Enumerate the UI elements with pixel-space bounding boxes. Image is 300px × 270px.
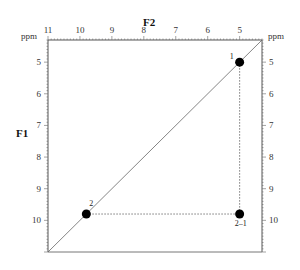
y-tick-label-right: 6 [269,89,274,99]
nmr-2d-correlation-chart: 11109876555667788991010 122–1 ppm ppm F2… [0,0,300,270]
y-tick-label-right: 8 [269,152,274,162]
y-tick-label-right: 10 [269,215,279,225]
tick-labels: 11109876555667788991010 [32,25,279,225]
data-point [82,210,91,219]
data-points: 122–1 [82,52,247,228]
y-tick-label-right: 7 [269,120,274,130]
diagonal [48,40,262,252]
y-axis-title: F1 [16,127,28,139]
x-unit-right: ppm [268,31,284,41]
x-axis-title: F2 [143,16,156,28]
y-tick-label-left: 8 [37,152,42,162]
y-tick-label-left: 9 [37,184,42,194]
y-tick-label-right: 9 [269,184,274,194]
y-tick-label-left: 7 [37,120,42,130]
y-tick-label-right: 5 [269,57,274,67]
x-tick-label: 9 [110,25,115,35]
y-tick-label-left: 10 [32,215,42,225]
data-point-label: 2 [89,199,93,208]
x-tick-label: 7 [174,25,179,35]
diagonal-line [48,40,262,252]
x-tick-label: 5 [237,25,242,35]
axis-ticks [44,36,266,252]
y-tick-label-left: 6 [37,89,42,99]
data-point-label: 1 [230,52,234,61]
x-tick-label: 10 [75,25,85,35]
data-point [235,210,244,219]
y-tick-label-left: 5 [37,57,42,67]
data-point-label: 2–1 [235,219,247,228]
x-tick-label: 11 [44,25,53,35]
data-point [235,58,244,67]
x-tick-label: 6 [205,25,210,35]
x-unit-left: ppm [21,31,37,41]
